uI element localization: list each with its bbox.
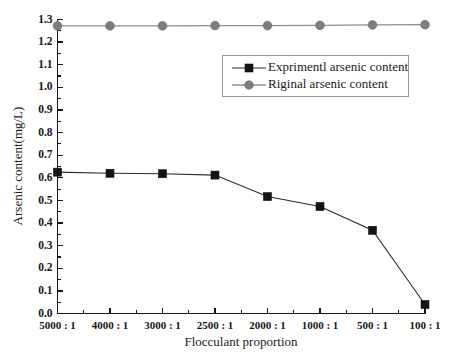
x-tick-label: 2500 : 1 xyxy=(197,319,234,331)
line-chart: 0.00.10.20.30.40.50.60.70.80.91.01.11.21… xyxy=(0,0,459,357)
data-point-square xyxy=(421,300,429,308)
legend-label-original: Riginal arsenic content xyxy=(268,76,388,91)
data-point-circle xyxy=(211,21,220,30)
chart-figure: 0.00.10.20.30.40.50.60.70.80.91.01.11.21… xyxy=(0,0,459,357)
circle-marker-icon xyxy=(245,81,254,90)
data-point-square xyxy=(211,171,219,179)
y-tick-label: 0.7 xyxy=(38,148,53,160)
square-marker-icon xyxy=(245,64,253,72)
data-point-square xyxy=(264,193,272,201)
legend-label-experimental: Exprimentl arsenic content xyxy=(268,59,408,74)
y-tick-label: 0.4 xyxy=(38,216,53,228)
y-tick-label: 0.9 xyxy=(38,103,53,115)
y-tick-label: 0.5 xyxy=(38,194,53,206)
y-tick-label: 1.2 xyxy=(38,35,53,47)
y-tick-label: 0.1 xyxy=(38,284,53,296)
x-tick-label: 3000 : 1 xyxy=(144,319,181,331)
data-point-square xyxy=(369,226,377,234)
x-axis-ticks: 5000 : 14000 : 13000 : 12500 : 12000 : 1… xyxy=(39,308,440,331)
data-point-circle xyxy=(368,21,377,30)
x-tick-label: 2000 : 1 xyxy=(249,319,286,331)
data-point-square xyxy=(316,203,324,211)
y-axis-ticks: 0.00.10.20.30.40.50.60.70.80.91.01.11.21… xyxy=(38,13,63,319)
data-point-circle xyxy=(316,21,325,30)
data-point-circle xyxy=(263,21,272,30)
data-point-circle xyxy=(421,20,430,29)
x-tick-label: 5000 : 1 xyxy=(39,319,76,331)
y-tick-label: 1.0 xyxy=(38,80,53,92)
series-line-experimental xyxy=(58,172,426,304)
y-tick-label: 0.6 xyxy=(38,171,53,183)
y-tick-label: 0.0 xyxy=(38,307,53,319)
x-axis-title: Flocculant proportion xyxy=(184,334,298,349)
x-tick-label: 4000 : 1 xyxy=(92,319,129,331)
y-tick-label: 0.3 xyxy=(38,239,53,251)
x-tick-label: 500 : 1 xyxy=(357,319,388,331)
chart-legend: Exprimentl arsenic content Riginal arsen… xyxy=(223,56,409,97)
y-tick-label: 0.8 xyxy=(38,126,53,138)
data-point-circle xyxy=(106,21,115,30)
y-tick-label: 1.1 xyxy=(38,58,53,70)
data-point-square xyxy=(159,170,167,178)
y-axis-title: Arsenic content(mg/L) xyxy=(10,107,25,226)
data-point-square xyxy=(54,168,62,176)
y-tick-label: 0.2 xyxy=(38,261,53,273)
data-point-circle xyxy=(53,21,62,30)
y-tick-label: 1.3 xyxy=(38,13,53,25)
data-point-square xyxy=(106,169,114,177)
data-point-circle xyxy=(158,21,167,30)
x-tick-label: 100 : 1 xyxy=(409,319,440,331)
x-tick-label: 1000 : 1 xyxy=(302,319,339,331)
